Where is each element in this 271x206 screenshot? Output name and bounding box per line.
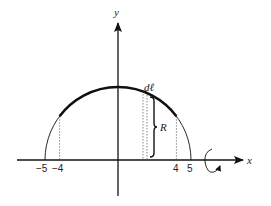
- tick-label-pos4: 4: [173, 163, 179, 174]
- tick-label-neg4: −4: [52, 163, 64, 174]
- tick-label-neg5: −5: [36, 163, 48, 174]
- tick-label-pos5: 5: [187, 163, 193, 174]
- y-axis-label: y: [113, 6, 119, 18]
- dl-label: dℓ: [144, 81, 155, 93]
- diagram-canvas: y x dℓ R −5 −4 4 5: [0, 0, 271, 206]
- x-axis-label: x: [246, 154, 252, 166]
- r-label: R: [159, 121, 167, 133]
- radius-brace: [150, 97, 157, 157]
